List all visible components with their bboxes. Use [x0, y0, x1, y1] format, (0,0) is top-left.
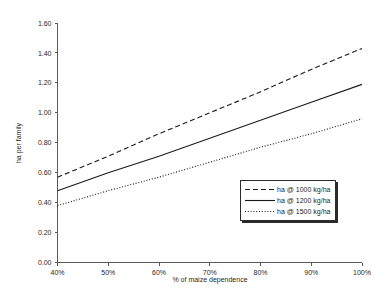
x-tick-label: 40% [50, 269, 64, 276]
x-tick-label: 90% [304, 269, 318, 276]
y-tick-label: 1.40 [38, 50, 52, 57]
x-tick-label: 60% [152, 269, 166, 276]
chart-container: 0.000.200.400.600.801.001.201.401.60 40%… [0, 0, 385, 297]
y-tick-label: 1.00 [38, 109, 52, 116]
legend-item: ha @ 1200 kg/ha [245, 195, 330, 206]
legend-dotted-line-icon [245, 207, 275, 216]
legend-item: ha @ 1000 kg/ha [245, 184, 330, 195]
legend-item: ha @ 1500 kg/ha [245, 206, 330, 217]
y-tick-label: 0.60 [38, 169, 52, 176]
y-tick-label: 1.60 [38, 20, 52, 27]
chart-legend: ha @ 1000 kg/ha ha @ 1200 kg/ha ha @ 150… [240, 180, 336, 221]
x-tick-label: 50% [101, 269, 115, 276]
x-axis-title: % of maize dependence [172, 276, 247, 284]
x-tick-label: 80% [253, 269, 267, 276]
y-axis-title: ha per family [15, 122, 23, 163]
x-tick-group: 40%50%60%70%80%90%100% [50, 263, 370, 276]
y-tick-label: 0.00 [38, 259, 52, 266]
legend-item-label: ha @ 1200 kg/ha [277, 196, 330, 205]
x-tick-label: 100% [353, 269, 371, 276]
legend-dashed-line-icon [245, 185, 275, 194]
x-tick-label: 70% [203, 269, 217, 276]
y-tick-group: 0.000.200.400.600.801.001.201.401.60 [38, 20, 58, 267]
legend-item-label: ha @ 1500 kg/ha [277, 207, 330, 216]
series-line-dashed [58, 48, 363, 177]
line-chart-plot: 0.000.200.400.600.801.001.201.401.60 40%… [0, 0, 385, 297]
y-tick-label: 1.20 [38, 79, 52, 86]
y-tick-label: 0.20 [38, 229, 52, 236]
y-tick-label: 0.40 [38, 199, 52, 206]
y-tick-label: 0.80 [38, 139, 52, 146]
series-line-solid [58, 84, 363, 190]
legend-solid-line-icon [245, 196, 275, 205]
legend-item-label: ha @ 1000 kg/ha [277, 185, 330, 194]
